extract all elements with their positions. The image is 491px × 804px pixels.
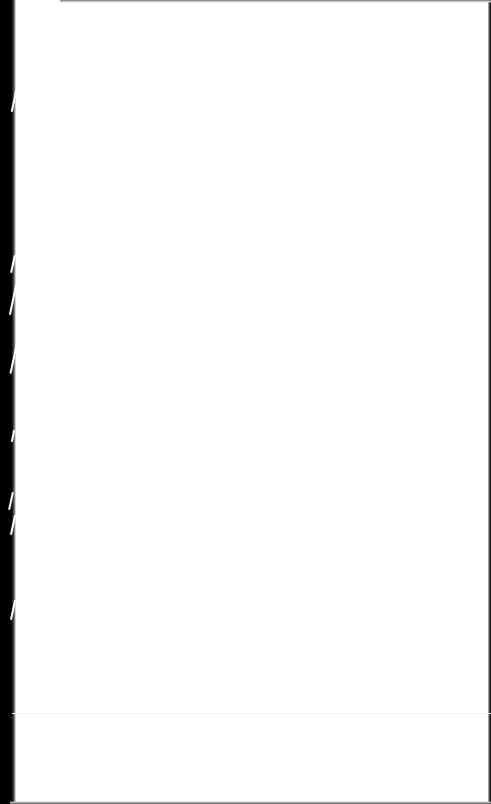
scanned-page <box>0 0 491 804</box>
page-body <box>20 10 481 794</box>
paper-top-edge <box>60 0 491 3</box>
paper-torn-edge <box>12 0 16 804</box>
